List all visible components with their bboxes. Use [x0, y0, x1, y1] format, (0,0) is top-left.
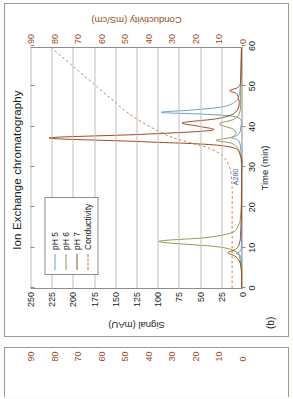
x-tick: [241, 206, 245, 207]
y-tick-label-signal: 100: [152, 292, 162, 307]
y-axis-title-signal: Signal (mAU): [108, 320, 165, 331]
y-tick-label-conductivity: 0: [237, 39, 247, 44]
x-tick-label-time: 30: [246, 162, 256, 172]
legend-item: Conductivity: [82, 204, 93, 270]
y-tick-label-signal: 200: [67, 292, 77, 307]
legend-label: pH 5: [49, 232, 60, 250]
annotation-a280: A280: [231, 169, 238, 185]
y-tick-label-conductivity: 20: [190, 34, 200, 44]
y-tick-label-conductivity-bottom: 40: [143, 351, 153, 361]
y-tick-label-conductivity: 70: [72, 34, 82, 44]
y-tick-label-signal: 125: [131, 292, 141, 307]
y-tick-label-signal: 25: [216, 292, 226, 302]
y-tick-label-conductivity: 60: [96, 34, 106, 44]
legend-item: pH 6: [60, 204, 71, 270]
x-tick-top: [30, 206, 34, 207]
y-tick-label-conductivity-bottom: 70: [72, 351, 82, 361]
plot-area-bottom: 0102030405060708090: [30, 366, 242, 398]
gridline: [115, 48, 116, 288]
legend-label: pH 7: [71, 232, 82, 250]
x-tick-label-time: 10: [246, 243, 256, 253]
y-tick-label-signal: 225: [46, 292, 56, 307]
y-tick-label-conductivity: 30: [166, 34, 176, 44]
x-tick-label-time: 0: [246, 285, 256, 290]
y-tick-label-signal: 75: [173, 292, 183, 302]
x-tick-top: [30, 166, 34, 167]
x-tick-top: [30, 45, 34, 46]
y-tick-label-conductivity-bottom: 20: [190, 351, 200, 361]
gridline: [136, 48, 137, 288]
rotated-chart-stage-bottom: Conductivity (mS/cm) 0102030405060708090: [6, 347, 287, 397]
legend-item: pH 7: [71, 204, 82, 270]
panel-letter: (b): [264, 317, 275, 329]
x-tick-label-time: 40: [246, 122, 256, 132]
figure-scan-background: Ion Exchange chromatography Signal (mAU)…: [0, 0, 293, 399]
y-tick-label-conductivity: 80: [49, 34, 59, 44]
legend-item: pH 5: [49, 204, 60, 270]
x-tick-label-time: 50: [246, 81, 256, 91]
y-tick-label-signal: 250: [25, 292, 35, 307]
x-tick-top: [30, 85, 34, 86]
x-tick: [241, 166, 245, 167]
x-tick-top: [30, 287, 34, 288]
legend-swatch-ph-7: [76, 254, 77, 270]
y-tick-label-conductivity-bottom: 50: [119, 351, 129, 361]
y-axis-title-conductivity: Conductivity (mS/cm): [91, 15, 181, 26]
x-tick: [241, 85, 245, 86]
gridline: [200, 48, 201, 288]
rotated-chart-stage: Ion Exchange chromatography Signal (mAU)…: [6, 5, 287, 335]
gridline: [30, 48, 31, 288]
x-tick: [241, 45, 245, 46]
y-tick-label-conductivity-bottom: 0: [237, 356, 247, 361]
chart-panel-bottom-fragment: Conductivity (mS/cm) 0102030405060708090: [4, 347, 289, 397]
gridline: [178, 48, 179, 288]
gridline: [221, 48, 222, 288]
x-tick-label-time: 20: [246, 202, 256, 212]
y-tick-label-conductivity-bottom: 10: [213, 351, 223, 361]
y-tick-label-signal: 150: [110, 292, 120, 307]
legend-label: pH 6: [60, 232, 71, 250]
x-tick: [241, 287, 245, 288]
y-tick-label-conductivity: 90: [25, 34, 35, 44]
y-tick-label-conductivity-bottom: 80: [49, 351, 59, 361]
x-tick: [241, 247, 245, 248]
y-tick-label-conductivity: 10: [213, 34, 223, 44]
x-tick-top: [30, 247, 34, 248]
y-tick-label-conductivity: 40: [143, 34, 153, 44]
x-tick-top: [30, 126, 34, 127]
y-tick-label-conductivity-bottom: 30: [166, 351, 176, 361]
y-tick-label-signal: 0: [237, 292, 247, 297]
chart-title: Ion Exchange chromatography: [10, 5, 22, 335]
legend-swatch-ph-6: [65, 254, 66, 270]
y-tick-label-conductivity-bottom: 90: [25, 351, 35, 361]
x-tick: [241, 126, 245, 127]
gridline: [157, 48, 158, 288]
x-axis-title-time: Time (min): [258, 47, 269, 289]
chart-panel-b: Ion Exchange chromatography Signal (mAU)…: [4, 3, 289, 337]
chart-legend: pH 5pH 6pH 7Conductivity: [44, 197, 98, 275]
y-tick-label-signal: 175: [89, 292, 99, 307]
y-tick-label-conductivity: 50: [119, 34, 129, 44]
legend-swatch-ph-5: [54, 254, 55, 270]
legend-swatch-conductivity: [87, 254, 88, 270]
x-tick-label-time: 60: [246, 41, 256, 51]
y-tick-label-conductivity-bottom: 60: [96, 351, 106, 361]
y-tick-label-signal: 50: [195, 292, 205, 302]
legend-label: Conductivity: [82, 204, 93, 250]
